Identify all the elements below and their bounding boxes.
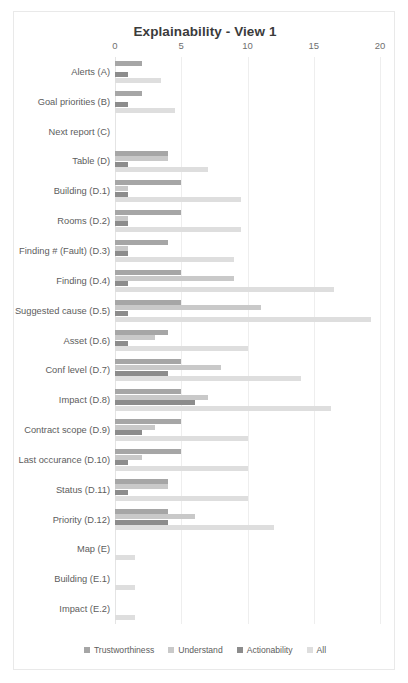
bar (115, 227, 241, 232)
legend-item[interactable]: Actionability (237, 645, 293, 655)
bar (115, 246, 128, 251)
bar (115, 430, 142, 435)
gridline-20 (380, 57, 381, 624)
gridline-5 (181, 57, 182, 624)
category-label: Goal priorities (B) (38, 97, 110, 107)
bar (115, 449, 181, 454)
bar (115, 162, 128, 167)
bar (115, 317, 371, 322)
chart-legend: TrustworthinessUnderstandActionabilityAl… (14, 645, 396, 655)
bar (115, 365, 221, 370)
legend-label: Understand (178, 645, 222, 655)
bar (115, 221, 128, 226)
bar (115, 514, 195, 519)
bar (115, 389, 181, 394)
bar (115, 400, 195, 405)
bar (115, 257, 234, 262)
x-tick-label-20: 20 (375, 40, 386, 51)
legend-label: All (317, 645, 327, 655)
x-tick-label-5: 5 (179, 40, 184, 51)
bar (115, 287, 334, 292)
category-label: Priority (D.12) (53, 515, 110, 525)
bar (115, 425, 155, 430)
legend-item[interactable]: All (307, 645, 327, 655)
bar (115, 395, 208, 400)
bar (115, 311, 128, 316)
bar (115, 305, 261, 310)
category-label: Impact (D.8) (59, 395, 110, 405)
category-label: Alerts (A) (71, 67, 110, 77)
bar (115, 330, 168, 335)
bar (115, 180, 181, 185)
bar (115, 436, 248, 441)
bar (115, 490, 128, 495)
bar (115, 156, 168, 161)
category-label: Impact (E.2) (59, 604, 110, 614)
category-label: Rooms (D.2) (57, 216, 110, 226)
bar (115, 270, 181, 275)
bar (115, 108, 175, 113)
bar (115, 555, 135, 560)
bar (115, 406, 331, 411)
legend-swatch-icon (237, 647, 243, 653)
legend-item[interactable]: Understand (168, 645, 222, 655)
bar (115, 525, 274, 530)
bar (115, 197, 241, 202)
bar (115, 615, 135, 620)
x-axis-tick-labels: 05101520 (115, 40, 380, 56)
bar (115, 585, 135, 590)
bar (115, 484, 168, 489)
bar (115, 186, 128, 191)
y-axis-category-labels: Alerts (A)Goal priorities (B)Next report… (14, 57, 110, 624)
legend-label: Trustworthiness (94, 645, 154, 655)
bar (115, 251, 128, 256)
category-label: Building (E.1) (54, 574, 110, 584)
bar (115, 300, 181, 305)
category-label: Table (D) (72, 156, 110, 166)
bar (115, 102, 128, 107)
legend-item[interactable]: Trustworthiness (84, 645, 154, 655)
category-label: Building (D.1) (54, 186, 110, 196)
bar (115, 455, 142, 460)
bar (115, 346, 248, 351)
bar (115, 479, 168, 484)
category-label: Asset (D.6) (64, 336, 111, 346)
x-tick-label-10: 10 (242, 40, 253, 51)
bar (115, 509, 168, 514)
bar (115, 276, 234, 281)
category-label: Last occurance (D.10) (19, 455, 110, 465)
legend-swatch-icon (307, 647, 313, 653)
bar (115, 210, 181, 215)
bar (115, 61, 142, 66)
category-label: Suggested cause (D.5) (15, 306, 110, 316)
bar (115, 371, 168, 376)
plot-area (115, 57, 380, 624)
gridline-15 (314, 57, 315, 624)
bar (115, 78, 161, 83)
bar (115, 419, 181, 424)
bar (115, 192, 128, 197)
category-label: Next report (C) (49, 127, 110, 137)
legend-label: Actionability (247, 645, 293, 655)
bar (115, 151, 168, 156)
category-label: Finding (D.4) (56, 276, 110, 286)
bar (115, 281, 128, 286)
category-label: Status (D.11) (56, 485, 110, 495)
x-tick-label-15: 15 (308, 40, 319, 51)
bar (115, 240, 168, 245)
bar (115, 520, 168, 525)
gridline-10 (248, 57, 249, 624)
bar (115, 496, 248, 501)
category-label: Finding # (Fault) (D.3) (19, 246, 110, 256)
bar (115, 376, 301, 381)
bar (115, 341, 128, 346)
category-label: Conf level (D.7) (45, 365, 110, 375)
bar (115, 167, 208, 172)
screenshot-root: Explainability - View 1 05101520 Alerts … (0, 0, 408, 683)
legend-swatch-icon (168, 647, 174, 653)
legend-swatch-icon (84, 647, 90, 653)
bar (115, 466, 248, 471)
bar (115, 91, 142, 96)
bar (115, 460, 128, 465)
bar (115, 335, 155, 340)
